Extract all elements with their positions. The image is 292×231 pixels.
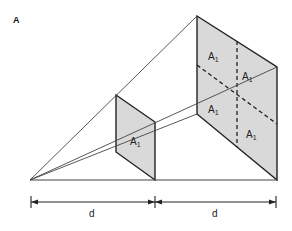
panel-label: A [13,15,20,25]
ray-lower [30,114,197,180]
distance-label-1: d [89,208,95,219]
inverse-square-diagram: A A1 A1 A1 A1 A1 d d [0,0,292,231]
ray-top [30,16,197,180]
distance-label-2: d [212,208,218,219]
